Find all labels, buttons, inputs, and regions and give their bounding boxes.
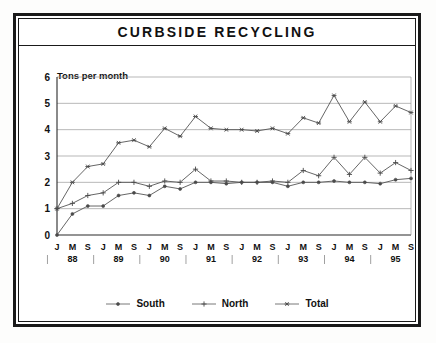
svg-text:6: 6 bbox=[44, 72, 50, 83]
svg-text:M: M bbox=[300, 242, 308, 252]
x-axis-year-labels: 8889909192939495 bbox=[67, 254, 400, 264]
chart-body: Tons per month 0123456 JMSJMSJMSJMSJMSJM… bbox=[19, 47, 415, 321]
svg-text:1: 1 bbox=[44, 203, 50, 214]
svg-text:S: S bbox=[408, 242, 414, 252]
svg-text:0: 0 bbox=[44, 230, 50, 241]
legend-item-south[interactable]: South bbox=[105, 298, 164, 309]
svg-text:S: S bbox=[269, 242, 275, 252]
svg-text:93: 93 bbox=[298, 254, 308, 264]
legend-label: Total bbox=[305, 298, 328, 309]
line-chart-plot: 0123456 JMSJMSJMSJMSJMSJMSJMSJMS 8889909… bbox=[19, 47, 419, 332]
svg-text:J: J bbox=[332, 242, 337, 252]
svg-text:M: M bbox=[253, 242, 261, 252]
svg-text:S: S bbox=[177, 242, 183, 252]
legend-item-north[interactable]: North bbox=[191, 298, 249, 309]
svg-text:J: J bbox=[193, 242, 198, 252]
chart-title-bar: CURBSIDE RECYCLING bbox=[19, 19, 415, 46]
y-axis-tick-labels: 0123456 bbox=[44, 72, 50, 241]
svg-text:J: J bbox=[378, 242, 383, 252]
svg-text:J: J bbox=[239, 242, 244, 252]
svg-text:91: 91 bbox=[206, 254, 216, 264]
chart-inner-frame: CURBSIDE RECYCLING Tons per month 012345… bbox=[18, 18, 416, 322]
x-axis-year-separators bbox=[47, 255, 419, 264]
svg-text:J: J bbox=[285, 242, 290, 252]
svg-text:M: M bbox=[161, 242, 169, 252]
svg-text:89: 89 bbox=[114, 254, 124, 264]
svg-text:S: S bbox=[223, 242, 229, 252]
svg-text:90: 90 bbox=[160, 254, 170, 264]
chart-outer-frame: CURBSIDE RECYCLING Tons per month 012345… bbox=[13, 13, 421, 327]
svg-text:S: S bbox=[362, 242, 368, 252]
svg-text:S: S bbox=[316, 242, 322, 252]
svg-text:92: 92 bbox=[252, 254, 262, 264]
svg-text:88: 88 bbox=[67, 254, 77, 264]
legend-label: South bbox=[136, 298, 164, 309]
asterisk-marker-icon bbox=[274, 299, 300, 309]
x-axis-tick-labels: JMSJMSJMSJMSJMSJMSJMSJMS bbox=[54, 242, 414, 252]
svg-text:S: S bbox=[131, 242, 137, 252]
svg-text:5: 5 bbox=[44, 98, 50, 109]
svg-text:3: 3 bbox=[44, 151, 50, 162]
svg-text:M: M bbox=[207, 242, 215, 252]
svg-text:J: J bbox=[101, 242, 106, 252]
chart-legend: SouthNorthTotal bbox=[19, 298, 415, 309]
svg-text:M: M bbox=[392, 242, 400, 252]
svg-text:M: M bbox=[69, 242, 77, 252]
dot-marker-icon bbox=[105, 299, 131, 309]
plus-marker-icon bbox=[191, 299, 217, 309]
svg-text:2: 2 bbox=[44, 177, 50, 188]
legend-label: North bbox=[222, 298, 249, 309]
series-total bbox=[55, 94, 414, 211]
chart-page: CURBSIDE RECYCLING Tons per month 012345… bbox=[0, 0, 436, 343]
page-title: CURBSIDE RECYCLING bbox=[117, 24, 316, 40]
svg-text:J: J bbox=[54, 242, 59, 252]
data-series-group bbox=[54, 94, 413, 237]
svg-text:M: M bbox=[346, 242, 354, 252]
svg-text:4: 4 bbox=[44, 124, 50, 135]
svg-text:S: S bbox=[85, 242, 91, 252]
gridlines bbox=[57, 77, 411, 235]
svg-text:94: 94 bbox=[344, 254, 354, 264]
svg-text:J: J bbox=[147, 242, 152, 252]
series-south bbox=[56, 177, 413, 237]
svg-text:95: 95 bbox=[391, 254, 401, 264]
svg-text:M: M bbox=[115, 242, 123, 252]
legend-item-total[interactable]: Total bbox=[274, 298, 328, 309]
